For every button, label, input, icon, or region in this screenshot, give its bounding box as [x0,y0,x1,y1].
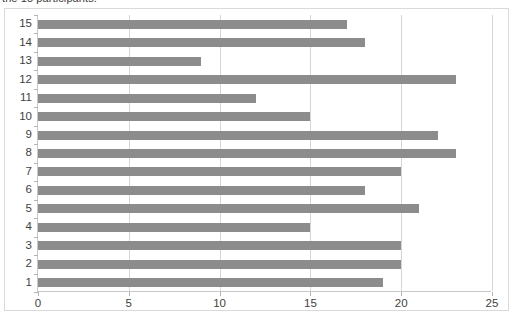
y-tickmark-1 [34,292,38,293]
gridline-x-25 [492,15,493,291]
x-tickmark-10 [220,292,221,296]
bar-13[interactable] [38,57,201,66]
bar-11[interactable] [38,94,256,103]
y-axis-label-3: 3 [26,240,32,252]
bar-row: 3 [38,237,491,255]
y-axis-label-7: 7 [26,166,32,178]
bar-row: 10 [38,107,491,125]
bar-7[interactable] [38,167,401,176]
bar-15[interactable] [38,20,347,29]
y-axis-label-12: 12 [19,74,32,86]
bar-3[interactable] [38,241,401,250]
bar-row: 8 [38,144,491,162]
bar-14[interactable] [38,38,365,47]
y-axis-label-11: 11 [20,92,32,104]
plot-area: 0510152025151413121110987654321 [37,15,491,292]
y-axis-label-14: 14 [19,37,32,49]
x-axis-label-10: 10 [213,298,226,310]
y-axis-label-5: 5 [26,203,32,215]
bar-row: 14 [38,33,491,51]
bar-row: 15 [38,15,491,33]
bar-9[interactable] [38,131,438,140]
bar-row: 11 [38,89,491,107]
y-axis-label-6: 6 [26,185,32,197]
bar-row: 1 [38,274,491,292]
x-tickmark-0 [38,292,39,296]
bar-row: 5 [38,200,491,218]
y-axis-label-4: 4 [26,222,32,234]
x-tickmark-15 [310,292,311,296]
x-tickmark-25 [492,292,493,296]
bar-row: 2 [38,255,491,273]
bar-row: 7 [38,163,491,181]
y-axis-label-1: 1 [26,277,32,289]
y-axis-label-2: 2 [26,259,32,271]
bar-row: 4 [38,218,491,236]
y-axis-label-13: 13 [19,55,32,67]
bar-row: 6 [38,181,491,199]
chart-frame: 0510152025151413121110987654321 [4,8,509,311]
y-axis-label-10: 10 [19,111,32,123]
bar-4[interactable] [38,223,310,232]
y-tickmark-top [34,15,38,16]
bar-2[interactable] [38,260,401,269]
bar-10[interactable] [38,112,310,121]
x-axis-label-0: 0 [35,298,41,310]
bar-6[interactable] [38,186,365,195]
x-tickmark-5 [129,292,130,296]
bar-12[interactable] [38,75,456,84]
bar-5[interactable] [38,204,419,213]
x-axis-label-25: 25 [486,298,499,310]
bar-8[interactable] [38,149,456,158]
bar-1[interactable] [38,278,383,287]
y-axis-label-15: 15 [19,18,32,30]
x-axis-label-5: 5 [126,298,132,310]
y-axis-label-8: 8 [26,148,32,160]
x-tickmark-20 [401,292,402,296]
x-axis-label-15: 15 [304,298,317,310]
bar-row: 9 [38,126,491,144]
caption-text: the 15 participants. [2,0,97,4]
caption-strip: the 15 participants. [0,0,513,8]
x-axis-label-20: 20 [395,298,408,310]
bar-row: 13 [38,52,491,70]
y-axis-label-9: 9 [26,129,32,141]
bar-row: 12 [38,70,491,88]
